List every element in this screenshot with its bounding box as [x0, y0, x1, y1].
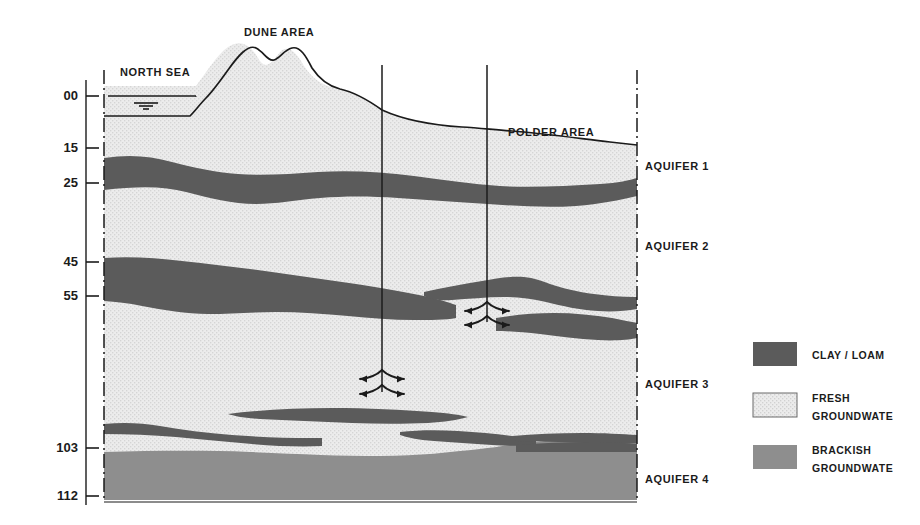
- legend-swatch-clay-loam: [753, 342, 797, 366]
- depth-tick-label-25: 25: [28, 175, 78, 190]
- legend-label-brackish-groundwater-line2: GROUNDWATE: [812, 461, 893, 476]
- label-aquifer-1: AQUIFER 1: [645, 160, 709, 173]
- depth-tick-label-55: 55: [28, 288, 78, 303]
- depth-tick-label-112: 112: [20, 488, 78, 503]
- label-aquifer-3: AQUIFER 3: [645, 378, 709, 391]
- legend-label-fresh-groundwater-line1: FRESH: [812, 391, 850, 406]
- depth-tick-label-15: 15: [28, 140, 78, 155]
- depth-tick-label-00: 00: [28, 88, 78, 103]
- legend-label-fresh-groundwater-line2: GROUNDWATE: [812, 409, 893, 424]
- section-body: [100, 40, 645, 505]
- label-dune-area: DUNE AREA: [244, 26, 314, 39]
- legend-swatches: [753, 342, 797, 469]
- legend-swatch-fresh-groundwater: [753, 393, 797, 417]
- label-aquifer-4: AQUIFER 4: [645, 473, 709, 486]
- depth-axis: [86, 80, 99, 505]
- legend-label-brackish-groundwater-line1: BRACKISH: [812, 443, 871, 458]
- legend-label-clay-loam: CLAY / LOAM: [812, 348, 885, 363]
- depth-tick-label-45: 45: [28, 254, 78, 269]
- label-polder-area: POLDER AREA: [508, 126, 594, 139]
- figure-canvas: 00 15 25 45 55 103 112 NORTH SEA DUNE AR…: [0, 0, 920, 525]
- depth-tick-label-103: 103: [20, 440, 78, 455]
- cross-section-drawing: [0, 0, 920, 525]
- legend-swatch-brackish-groundwater: [753, 445, 797, 469]
- label-north-sea: NORTH SEA: [120, 66, 190, 79]
- label-aquifer-2: AQUIFER 2: [645, 240, 709, 253]
